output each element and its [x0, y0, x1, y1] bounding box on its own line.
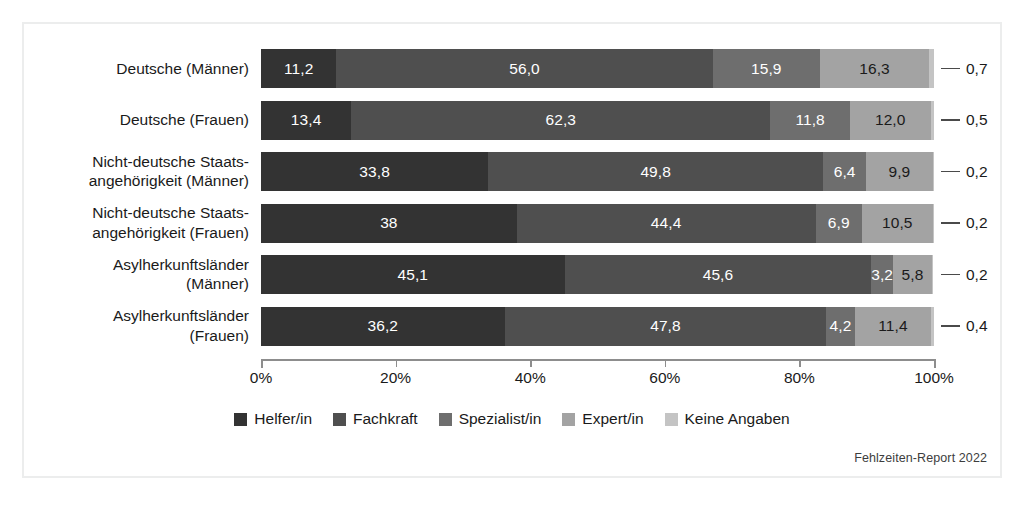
bar-segment: 11,4	[855, 307, 932, 346]
legend-color-swatch	[333, 413, 346, 426]
legend-color-swatch	[439, 413, 452, 426]
bar-segment-value: 33,8	[359, 163, 390, 181]
bar-segment-value: 62,3	[546, 111, 577, 129]
bar-segment-value: 36,2	[368, 317, 399, 335]
callout-value: 0,4	[966, 317, 988, 335]
x-axis-tick	[396, 359, 398, 367]
category-label: Asylherkunftsländer(Männer)	[25, 255, 261, 295]
bar-segment: 6,9	[816, 204, 862, 243]
chart-figure: 11,256,015,916,3Deutsche (Männer)0,713,4…	[22, 22, 1002, 478]
callout-leader-line	[941, 68, 960, 70]
bar-segment-value: 3,2	[871, 266, 893, 284]
callout-value: 0,5	[966, 111, 988, 129]
stacked-bar: 33,849,86,49,9	[261, 152, 934, 191]
bar-segment-value: 11,2	[284, 60, 313, 78]
category-label: Nicht-deutsche Staats-angehörigkeit (Fra…	[25, 203, 261, 243]
bar-segment: 36,2	[261, 307, 505, 346]
x-axis-tick-label: 60%	[649, 369, 680, 387]
bar-segment: 44,4	[517, 204, 816, 243]
bar-row: 13,462,311,812,0	[261, 101, 934, 140]
bar-segment: 6,4	[823, 152, 866, 191]
callout-value: 0,7	[966, 60, 988, 78]
bar-segment-value: 45,1	[397, 266, 428, 284]
stacked-bar: 45,145,63,25,8	[261, 255, 934, 294]
bar-row: 45,145,63,25,8	[261, 255, 934, 294]
legend-item[interactable]: Expert/in	[562, 410, 643, 428]
bar-row: 11,256,015,916,3	[261, 49, 934, 88]
stacked-bar: 3844,46,910,5	[261, 204, 934, 243]
bar-segment: 4,2	[826, 307, 854, 346]
x-axis-tick	[530, 359, 532, 367]
bar-segment: 38	[261, 204, 517, 243]
segment-callout: 0,7	[934, 49, 988, 88]
x-axis-tick-label: 80%	[784, 369, 815, 387]
bar-segment: 11,8	[770, 101, 849, 140]
category-label: Asylherkunftsländer(Frauen)	[25, 306, 261, 346]
callout-leader-line	[941, 119, 960, 121]
x-axis-tick	[261, 359, 263, 368]
bar-segment-value: 10,5	[882, 214, 913, 232]
x-axis-tick-labels: 0%20%40%60%80%100%	[261, 369, 934, 391]
bar-segment: 13,4	[261, 101, 351, 140]
x-axis-tick	[799, 359, 801, 367]
stacked-bar: 13,462,311,812,0	[261, 101, 934, 140]
bar-segment: 15,9	[713, 49, 820, 88]
x-axis-tick	[934, 359, 936, 368]
chart-legend: Helfer/inFachkraftSpezialist/inExpert/in…	[24, 410, 1000, 428]
x-axis-tick	[665, 359, 667, 367]
bar-segment-value: 56,0	[509, 60, 540, 78]
bar-segment-value: 11,8	[795, 111, 824, 129]
bar-segment: 9,9	[866, 152, 933, 191]
legend-label: Helfer/in	[254, 410, 312, 428]
bar-segment-value: 13,4	[291, 111, 322, 129]
legend-label: Fachkraft	[353, 410, 418, 428]
bar-segment: 11,2	[261, 49, 336, 88]
category-label: Deutsche (Frauen)	[25, 110, 261, 130]
bar-segment: 47,8	[505, 307, 827, 346]
legend-color-swatch	[562, 413, 575, 426]
bar-segment-value: 15,9	[751, 60, 782, 78]
bar-segment: 45,1	[261, 255, 565, 294]
bar-segment-value: 11,4	[878, 317, 907, 335]
bar-segment: 12,0	[850, 101, 931, 140]
callout-value: 0,2	[966, 214, 988, 232]
x-axis-tick-label: 20%	[380, 369, 411, 387]
segment-callout: 0,4	[934, 307, 988, 346]
callout-leader-line	[941, 325, 960, 327]
segment-callout: 0,2	[934, 152, 988, 191]
bar-row: 3844,46,910,5	[261, 204, 934, 243]
legend-color-swatch	[665, 413, 678, 426]
stacked-bar: 11,256,015,916,3	[261, 49, 934, 88]
bar-segment-value: 9,9	[888, 163, 910, 181]
bar-segment: 33,8	[261, 152, 488, 191]
legend-item[interactable]: Spezialist/in	[439, 410, 542, 428]
legend-item[interactable]: Fachkraft	[333, 410, 418, 428]
bar-segment-value: 4,2	[830, 317, 852, 335]
legend-item[interactable]: Keine Angaben	[665, 410, 790, 428]
stacked-bar: 36,247,84,211,4	[261, 307, 934, 346]
bar-segment-value: 49,8	[640, 163, 671, 181]
legend-color-swatch	[234, 413, 247, 426]
segment-callout: 0,2	[934, 204, 988, 243]
bar-segment: 3,2	[871, 255, 893, 294]
bar-segment: 5,8	[893, 255, 932, 294]
segment-callout: 0,2	[934, 255, 988, 294]
bar-row: 36,247,84,211,4	[261, 307, 934, 346]
bar-segment-value: 5,8	[902, 266, 924, 284]
bar-segment-value: 12,0	[875, 111, 906, 129]
legend-label: Keine Angaben	[685, 410, 790, 428]
legend-item[interactable]: Helfer/in	[234, 410, 312, 428]
segment-callout: 0,5	[934, 101, 988, 140]
bar-segment-value: 47,8	[650, 317, 681, 335]
callout-leader-line	[941, 171, 960, 173]
bar-segment: 16,3	[820, 49, 930, 88]
callout-value: 0,2	[966, 163, 988, 181]
bar-segment-value: 45,6	[703, 266, 734, 284]
bar-segment: 56,0	[336, 49, 713, 88]
bar-segment: 49,8	[488, 152, 823, 191]
bar-segment-value: 6,9	[828, 214, 850, 232]
category-label: Deutsche (Männer)	[25, 59, 261, 79]
source-note: Fehlzeiten-Report 2022	[854, 451, 987, 465]
x-axis-tick-label: 40%	[515, 369, 546, 387]
bar-segment: 62,3	[351, 101, 770, 140]
